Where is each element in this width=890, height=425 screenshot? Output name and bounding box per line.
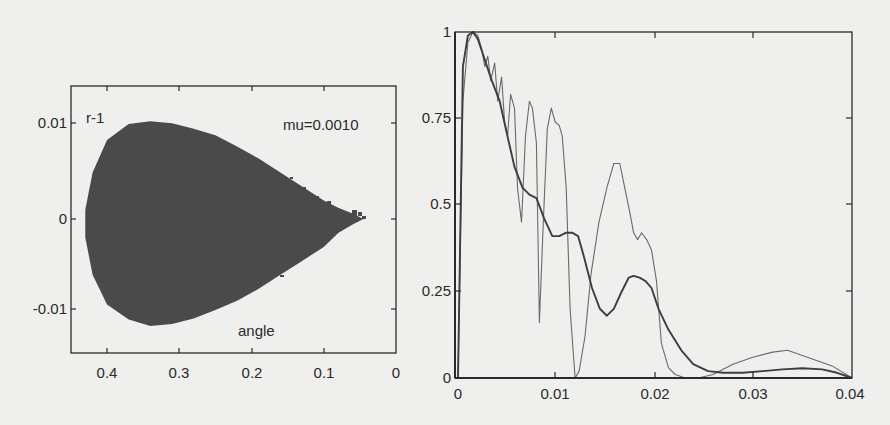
left-y-tick-label: 0.01 <box>38 114 67 131</box>
right-y-tick-labels: 10.750.50.250 <box>422 23 451 386</box>
right-plot-frame <box>455 32 852 378</box>
left-x-tick-labels: 0.40.30.20.10 <box>97 364 401 381</box>
phase-space-region <box>85 121 363 326</box>
left-y-tick-label: -0.01 <box>33 300 67 317</box>
right-y-tick-label: 0.25 <box>422 282 451 299</box>
left-x-tick-label: 0 <box>392 364 400 381</box>
right-y-tick-label: 0.75 <box>422 109 451 126</box>
right-y-tick-label: 1 <box>443 23 451 40</box>
right-x-tick-label: 0.01 <box>540 385 569 402</box>
left-x-tick-label: 0.1 <box>314 364 335 381</box>
right-axis-ticks <box>455 32 852 378</box>
left-panel: 0.40.30.20.10 0.010-0.01 r-1 mu=0.0010 a… <box>33 86 400 381</box>
right-x-tick-label: 0.02 <box>640 385 669 402</box>
right-x-tick-label: 0 <box>454 385 462 402</box>
left-y-tick-label: 0 <box>59 210 67 227</box>
right-x-tick-labels: 00.010.020.030.04 <box>454 385 865 402</box>
left-x-tick-label: 0.4 <box>97 364 118 381</box>
thin-oscillating-curve <box>458 32 852 378</box>
thick-smooth-curve <box>458 32 852 378</box>
left-xlabel-angle: angle <box>238 322 275 339</box>
right-y-tick-label: 0.5 <box>430 195 451 212</box>
left-x-tick-label: 0.3 <box>169 364 190 381</box>
right-x-tick-label: 0.03 <box>738 385 767 402</box>
mu-parameter-annotation: mu=0.0010 <box>283 116 358 133</box>
left-ylabel-annotation: r-1 <box>86 109 104 126</box>
left-x-tick-label: 0.2 <box>242 364 263 381</box>
left-y-tick-labels: 0.010-0.01 <box>33 114 67 317</box>
right-x-tick-label: 0.04 <box>835 385 864 402</box>
figure: 0.40.30.20.10 0.010-0.01 r-1 mu=0.0010 a… <box>0 0 890 425</box>
right-y-tick-label: 0 <box>443 369 451 386</box>
right-panel: 00.010.020.030.04 10.750.50.250 <box>422 23 865 402</box>
